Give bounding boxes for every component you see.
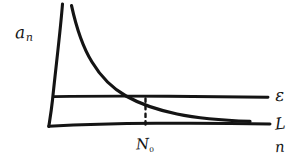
threshold-label-base: N <box>135 135 149 154</box>
y-axis-label: an <box>15 24 34 44</box>
limit-label: L <box>275 115 286 133</box>
epsilon-line <box>54 96 269 97</box>
y-axis-label-base: a <box>14 22 25 43</box>
convergence-diagram: an ε L n N₀ <box>0 0 301 164</box>
y-axis-line <box>49 4 63 127</box>
threshold-label: N₀ <box>136 137 154 155</box>
x-axis-label: n <box>274 140 285 156</box>
y-axis-label-subscript: n <box>26 31 34 44</box>
threshold-label-subscript: ₀ <box>149 142 154 155</box>
epsilon-label: ε <box>274 87 284 105</box>
sequence-curve <box>72 6 251 122</box>
x-axis-line <box>49 123 270 126</box>
